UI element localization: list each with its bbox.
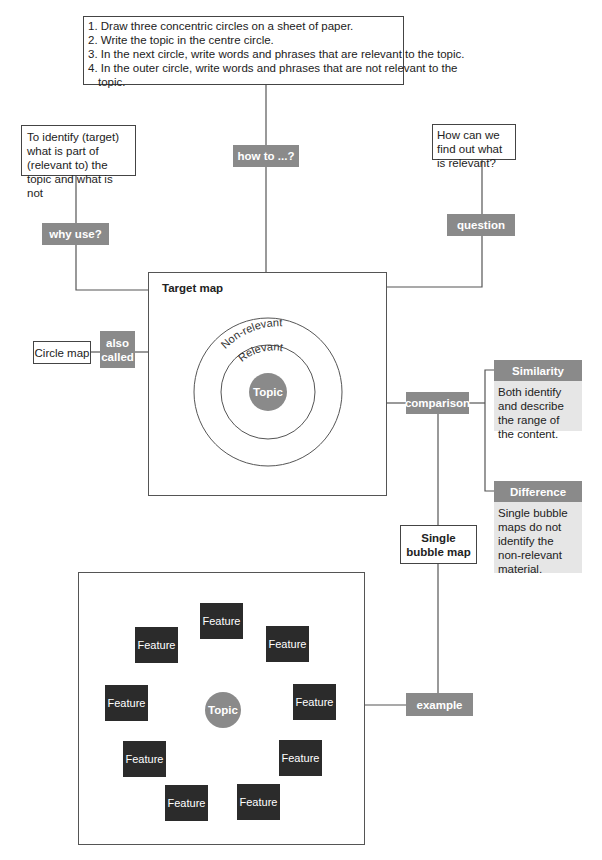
step-2: 2. Write the topic in the centre circle. bbox=[88, 33, 399, 47]
svg-text:Relevant: Relevant bbox=[236, 340, 284, 364]
circle-map-box: Circle map bbox=[33, 341, 91, 364]
comparison-label: comparison bbox=[406, 392, 469, 414]
why-use-label: why use? bbox=[42, 223, 109, 245]
target-topic-label: Topic bbox=[253, 386, 283, 398]
step-4: 4. In the outer circle, write words and … bbox=[88, 61, 399, 75]
single-bubble-map-box: Single bubble map bbox=[400, 525, 477, 564]
feature-box: Feature bbox=[123, 741, 166, 777]
bubble-topic: Topic bbox=[205, 692, 241, 728]
feature-box: Feature bbox=[200, 603, 243, 639]
question-label: question bbox=[447, 214, 515, 236]
similarity-text: Both identify and describe the range of … bbox=[494, 381, 582, 431]
target-map-frame: Target map Non-relevant Relevant Topic bbox=[148, 272, 387, 496]
difference-heading: Difference bbox=[494, 481, 582, 502]
step-3: 3. In the next circle, write words and p… bbox=[88, 47, 399, 61]
example-label: example bbox=[406, 693, 473, 716]
concentric-circles: Non-relevant Relevant Topic bbox=[149, 273, 388, 497]
feature-box: Feature bbox=[237, 784, 280, 820]
step-4-continued: topic. bbox=[88, 75, 399, 89]
feature-box: Feature bbox=[266, 626, 309, 662]
difference-text: Single bubble maps do not identify the n… bbox=[494, 502, 582, 573]
feature-box: Feature bbox=[135, 627, 178, 663]
why-use-box: To identify (target) what is part of (re… bbox=[21, 125, 136, 176]
how-to-label: how to ...? bbox=[233, 145, 299, 167]
steps-box: 1. Draw three concentric circles on a sh… bbox=[83, 16, 404, 85]
also-called-label: also called bbox=[100, 331, 135, 368]
feature-box: Feature bbox=[105, 685, 148, 721]
feature-box: Feature bbox=[165, 785, 208, 821]
feature-box: Feature bbox=[293, 684, 336, 720]
feature-box: Feature bbox=[279, 740, 322, 776]
relevant-ring-label: Relevant bbox=[236, 340, 284, 364]
question-box: How can we find out what is relevant? bbox=[432, 124, 516, 160]
similarity-heading: Similarity bbox=[494, 360, 582, 381]
step-1: 1. Draw three concentric circles on a sh… bbox=[88, 19, 399, 33]
